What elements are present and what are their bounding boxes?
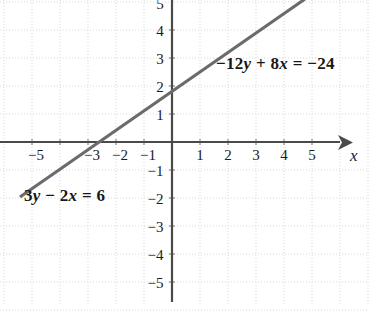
y-tick-label-neg4: −4	[144, 247, 167, 264]
y-tick-label-5: 5	[153, 0, 167, 13]
top-eq-operator: + 8	[251, 54, 279, 73]
top-eq-right-hand-side: = −24	[288, 54, 335, 73]
x-axis	[0, 135, 353, 150]
x-tick-label-neg3: −3	[81, 147, 103, 164]
x-tick-label-1: 1	[194, 147, 206, 164]
x-tick-label-neg5: −5	[25, 147, 47, 164]
y-tick-label-neg2: −2	[144, 191, 167, 208]
equation-label-bottom: 3y − 2x = 6	[24, 186, 105, 206]
top-eq-coefficient: −12	[216, 54, 244, 73]
bottom-eq-right-hand-side: = 6	[77, 186, 105, 205]
y-tick-label-3: 3	[153, 51, 167, 68]
x-tick-label-3: 3	[250, 147, 262, 164]
bottom-eq-variable-y: y	[33, 186, 41, 205]
x-tick-label-4: 4	[278, 147, 290, 164]
x-axis-label: x	[350, 146, 358, 166]
x-tick-label-2: 2	[222, 147, 234, 164]
y-tick-label-neg3: −3	[144, 219, 167, 236]
coordinate-plane-graph: −5 −3 −2 −1 1 2 3 4 5 5 4 3 2 1 −1 −2 −3…	[0, 0, 369, 315]
y-tick-label-2: 2	[153, 79, 167, 96]
y-tick-label-1: 1	[153, 107, 167, 124]
top-eq-variable-x: x	[279, 54, 288, 73]
y-tick-label-neg1: −1	[144, 163, 167, 180]
bottom-eq-coefficient: 3	[24, 186, 33, 205]
y-tick-label-neg5: −5	[144, 275, 167, 292]
x-tick-label-5: 5	[306, 147, 318, 164]
bottom-eq-operator: − 2	[41, 186, 69, 205]
x-tick-label-neg1: −1	[137, 147, 159, 164]
x-tick-label-neg2: −2	[109, 147, 131, 164]
equation-label-top: −12y + 8x = −24	[216, 54, 335, 74]
y-tick-label-4: 4	[153, 23, 167, 40]
